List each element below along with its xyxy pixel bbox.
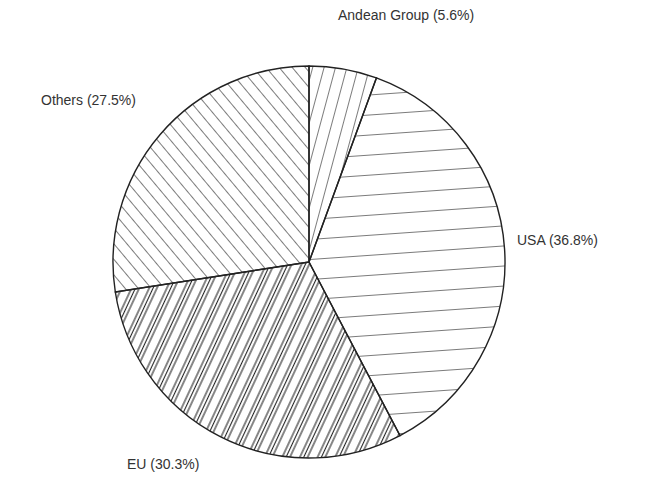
label-usa: USA (36.8%) xyxy=(517,232,598,248)
label-eu: EU (30.3%) xyxy=(127,456,199,472)
label-others: Others (27.5%) xyxy=(41,92,136,108)
pie-chart xyxy=(0,0,659,498)
label-andean-group: Andean Group (5.6%) xyxy=(338,7,474,23)
slice-others xyxy=(113,66,309,292)
